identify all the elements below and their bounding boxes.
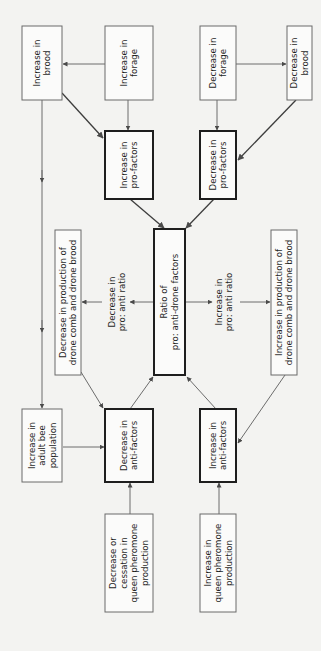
node-dec-forage: Decrease inforage — [200, 26, 236, 100]
node-label-line: Decrease in production of — [58, 246, 68, 358]
node-label: Increase inpro-factors — [119, 141, 140, 188]
node-inc-adult: Increase inadult beepopulation — [22, 409, 62, 482]
node-label-line: anti-factors — [218, 420, 228, 470]
node-dec-anti: Decrease inanti-factors — [105, 409, 153, 482]
node-label-line: production — [140, 540, 150, 586]
node-label-line: forage — [218, 49, 228, 77]
node-label-line: population — [48, 423, 58, 469]
node-label: Increase inanti-factors — [208, 420, 229, 470]
node-label-line: brood — [42, 51, 52, 76]
node-inc-pro: Increase inpro-factors — [105, 131, 153, 199]
node-label-line: Decrease or — [108, 537, 118, 589]
node-label: Decrease in production ofdrone comb and … — [58, 240, 79, 365]
node-dec-queen: Decrease orcessation inqueen pheromonepr… — [105, 514, 153, 612]
node-ratio: Ratio ofpro: anti-drone factors — [154, 229, 185, 375]
node-label-line: Increase in production of — [274, 248, 284, 356]
node-label: Decrease inpro-factors — [208, 140, 229, 191]
node-label-line: Decrease in — [289, 38, 299, 89]
edge-label-dec-ratio-label-line: Decrease in — [107, 277, 117, 328]
node-inc-forage: Increase inforage — [105, 26, 153, 100]
node-label-line: adult bee — [37, 425, 47, 466]
edge-label-inc-ratio-label-line: pro: anti ratio — [224, 273, 234, 332]
node-label-line: pro: anti-drone factors — [170, 253, 180, 350]
node-label-line: queen pheromone — [129, 524, 139, 603]
node-label-line: Increase in — [208, 422, 218, 469]
node-inc-brood: Increase inbrood — [22, 26, 62, 100]
node-dec-prod: Decrease in production ofdrone comb and … — [55, 230, 81, 375]
node-label-line: pro-factors — [218, 141, 228, 188]
node-label-line: Decrease in — [208, 140, 218, 191]
node-label-line: Decrease in — [208, 38, 218, 89]
node-label-line: drone comb and drone brood — [68, 240, 78, 365]
node-label: Decrease inanti-factors — [119, 420, 140, 471]
edge-label-dec-ratio-label: Decrease inpro: anti ratio — [107, 273, 128, 332]
node-inc-queen: Increase inqueen pheromoneproduction — [200, 514, 236, 612]
node-label-line: Increase in — [119, 40, 129, 87]
node-label-line: pro-factors — [129, 141, 139, 188]
node-label-line: Decrease in — [119, 420, 129, 471]
node-label-line: queen pheromone — [213, 524, 223, 603]
edge-label-inc-ratio-label-line: Increase in — [214, 279, 224, 326]
edge-label-inc-ratio-label: Increase inpro: anti ratio — [214, 273, 235, 332]
edge-label-dec-ratio-label-line: pro: anti ratio — [117, 273, 127, 332]
node-inc-anti: Increase inanti-factors — [200, 409, 236, 482]
node-label-line: cessation in — [119, 537, 129, 588]
node-dec-pro: Decrease inpro-factors — [200, 131, 236, 199]
node-label-line: forage — [129, 49, 139, 77]
node-label-line: Increase in — [119, 142, 129, 189]
node-label-line: brood — [300, 51, 310, 76]
node-dec-brood: Decrease inbrood — [287, 26, 312, 100]
node-label-line: Increase in — [32, 40, 42, 87]
node-label-line: production — [224, 540, 234, 586]
node-label-line: Ratio of — [159, 284, 169, 318]
bee-drone-production-flow-diagram: Increase inbroodIncrease inforageDecreas… — [0, 0, 321, 651]
node-label-line: Increase in — [203, 540, 213, 587]
node-label-line: Increase in — [27, 422, 37, 469]
node-label-line: drone comb and drone brood — [284, 240, 294, 365]
node-label-line: anti-factors — [129, 420, 139, 470]
node-label: Increase inadult beepopulation — [27, 422, 58, 469]
node-inc-prod: Increase in production ofdrone comb and … — [271, 230, 297, 375]
node-label: Increase in production ofdrone comb and … — [274, 240, 295, 365]
